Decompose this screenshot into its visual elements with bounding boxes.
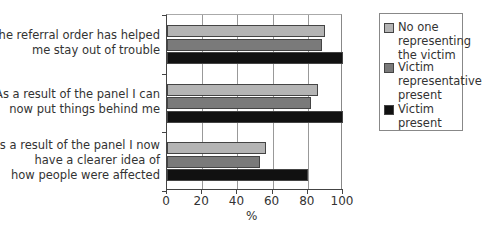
- legend-label: Victimpresent: [398, 102, 442, 130]
- x-axis-label: %: [246, 209, 257, 223]
- x-tick-label: 0: [151, 194, 181, 208]
- legend-item: Victimpresent: [384, 102, 442, 130]
- x-tick-label: 100: [327, 194, 357, 208]
- y-tick: [162, 74, 167, 75]
- bar: [167, 111, 343, 123]
- bar: [167, 156, 260, 168]
- legend-swatch: [384, 23, 394, 33]
- legend-item: Victimrepresentativepresent: [384, 60, 482, 102]
- x-axis: [166, 189, 342, 190]
- plot-area: [166, 14, 342, 190]
- x-tick-label: 40: [221, 194, 251, 208]
- bar: [167, 97, 311, 109]
- legend-item: No onerepresentingthe victim: [384, 20, 471, 62]
- legend-swatch: [384, 105, 394, 115]
- bar: [167, 52, 343, 64]
- category-label: The referral order has helpedme stay out…: [0, 28, 160, 58]
- legend-label: Victimrepresentativepresent: [398, 60, 482, 102]
- legend-swatch: [384, 63, 394, 73]
- legend: No onerepresentingthe victimVictimrepres…: [379, 13, 463, 131]
- bar: [167, 142, 266, 154]
- y-tick: [162, 132, 167, 133]
- x-tick-label: 60: [257, 194, 287, 208]
- bar: [167, 84, 318, 96]
- bar: [167, 25, 325, 37]
- x-tick-label: 20: [186, 194, 216, 208]
- y-tick: [162, 15, 167, 16]
- x-tick-label: 80: [292, 194, 322, 208]
- bar: [167, 39, 322, 51]
- bar: [167, 169, 308, 181]
- legend-label: No onerepresentingthe victim: [398, 20, 471, 62]
- category-label: As a result of the panel I cannow put th…: [0, 87, 160, 117]
- category-label: As a result of the panel I nowhave a cle…: [0, 138, 160, 183]
